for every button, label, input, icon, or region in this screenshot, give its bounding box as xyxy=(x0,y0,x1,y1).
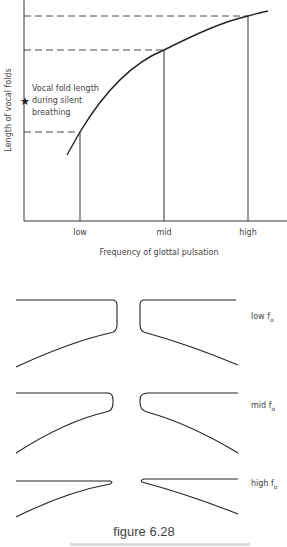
fold-label-mid: mid fo xyxy=(251,401,275,412)
tick-high: high xyxy=(239,228,256,237)
tick-mid: mid xyxy=(156,228,171,237)
fold-label-low: low fo xyxy=(251,312,274,323)
tick-low: low xyxy=(73,228,87,237)
fold-shape-high xyxy=(16,479,238,517)
figure-caption: figure 6.28 xyxy=(113,524,174,539)
x-axis-label: Frequency of glottal pulsation xyxy=(99,248,218,257)
annotation-line-3: breathing xyxy=(32,108,71,117)
length-frequency-curve xyxy=(67,11,268,155)
figure-canvas: ★ Vocal fold length during silent breath… xyxy=(0,0,287,547)
annotation-line-1: Vocal fold length xyxy=(32,84,99,93)
annotation-line-2: during silent xyxy=(32,96,82,105)
fold-label-high: high fo xyxy=(251,479,278,490)
truncated-caption-line xyxy=(70,543,250,546)
y-axis-label: Length of vocal folds xyxy=(4,68,13,151)
fold-shape-mid xyxy=(16,393,238,453)
star-icon: ★ xyxy=(20,95,30,108)
fold-shape-low xyxy=(16,300,238,367)
